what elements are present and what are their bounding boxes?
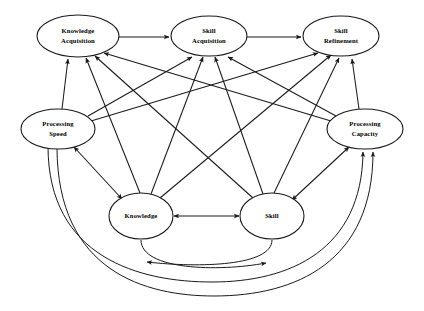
edge-processing-capacity-to-skill-refinement bbox=[352, 59, 359, 109]
node-processing-capacity-label-line2: Capacity bbox=[352, 130, 379, 137]
edge-processing-capacity-skill-bidirectional bbox=[292, 147, 349, 200]
node-processing-capacity-label-line1: Processing bbox=[349, 120, 381, 127]
node-processing-speed-label-line2: Speed bbox=[49, 130, 67, 137]
node-skill-acquisition-label-line1: Skill bbox=[202, 27, 216, 34]
node-skill-refinement-label-line2: Refinement bbox=[324, 37, 359, 44]
edge-knowledge-to-skill-acquisition bbox=[151, 57, 203, 194]
edge-skill-to-skill-acquisition bbox=[215, 57, 263, 194]
edge-skill-to-knowledge-arc bbox=[147, 240, 272, 265]
node-skill-acquisition-label-line2: Acquisition bbox=[192, 37, 226, 44]
edge-knowledge-to-skill-refinement bbox=[160, 55, 331, 198]
edge-layer bbox=[48, 37, 373, 296]
edge-processing-speed-to-processing-capacity-arc-1 bbox=[48, 146, 363, 282]
node-knowledge-label: Knowledge bbox=[125, 212, 158, 219]
node-knowledge-acquisition[interactable]: Knowledge Acquisition bbox=[37, 15, 119, 57]
edge-processing-speed-knowledge-bidirectional bbox=[74, 147, 122, 199]
node-knowledge[interactable]: Knowledge bbox=[109, 193, 173, 239]
edge-processing-speed-to-skill-acquisition bbox=[88, 57, 192, 116]
node-skill-label: Skill bbox=[265, 212, 279, 219]
node-knowledge-acquisition-label-line2: Acquisition bbox=[61, 37, 95, 44]
node-layer: Knowledge Acquisition Skill Acquisition … bbox=[21, 15, 403, 239]
node-processing-capacity[interactable]: Processing Capacity bbox=[327, 109, 403, 149]
edge-skill-to-knowledge-acquisition bbox=[95, 56, 253, 198]
node-skill-acquisition[interactable]: Skill Acquisition bbox=[171, 16, 247, 56]
node-skill[interactable]: Skill bbox=[240, 193, 304, 239]
node-knowledge-acquisition-label-line1: Knowledge bbox=[62, 27, 95, 34]
edge-processing-capacity-to-skill-acquisition bbox=[228, 57, 336, 116]
diagram-svg: Knowledge Acquisition Skill Acquisition … bbox=[0, 0, 424, 311]
diagram-canvas: Knowledge Acquisition Skill Acquisition … bbox=[0, 0, 424, 311]
node-skill-refinement[interactable]: Skill Refinement bbox=[303, 16, 379, 56]
node-processing-speed-label-line1: Processing bbox=[42, 120, 74, 127]
node-processing-speed[interactable]: Processing Speed bbox=[21, 109, 95, 149]
edge-processing-speed-to-knowledge-acquisition bbox=[62, 59, 68, 109]
node-skill-refinement-label-line1: Skill bbox=[334, 27, 348, 34]
